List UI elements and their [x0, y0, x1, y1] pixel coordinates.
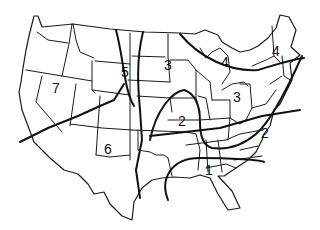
zone-label-3-ohio: 3: [233, 89, 241, 105]
us-zone-map: 7 5 3 4 4 3 2 2 6 1: [0, 0, 320, 230]
zone-label-2-carolinas: 2: [261, 125, 269, 141]
zone-label-2-central: 2: [178, 113, 186, 129]
zone-label-7: 7: [52, 80, 60, 96]
zone-label-4-great-lakes: 4: [221, 54, 229, 70]
zone-label-1: 1: [205, 162, 213, 178]
zone-label-6: 6: [104, 141, 112, 157]
zone-label-3-plains: 3: [164, 57, 172, 73]
zone-label-4-new-england: 4: [272, 43, 280, 59]
zone-label-5: 5: [121, 64, 129, 80]
